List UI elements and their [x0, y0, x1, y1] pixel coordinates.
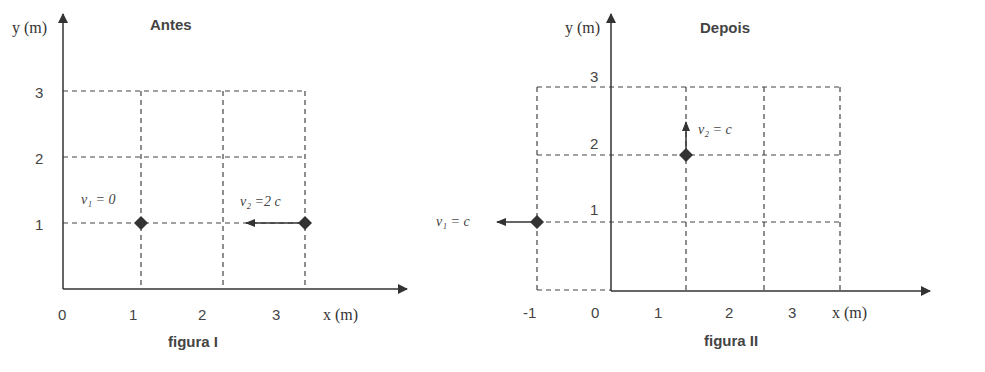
velocity-label-1b: v₁ = c — [436, 215, 470, 229]
x-tick-3b: 3 — [788, 305, 796, 320]
figure-2 — [497, 14, 930, 291]
grid-1 — [63, 91, 305, 289]
velocity-label-1: v₁ = 0 — [81, 193, 116, 207]
figure-2-title: Depois — [700, 20, 750, 35]
y-tick-3: 3 — [35, 85, 43, 100]
figure-1 — [63, 14, 407, 289]
y-axis-label-2: y (m) — [565, 20, 600, 36]
y-tick-2b: 2 — [590, 136, 598, 151]
y-tick-2: 2 — [35, 151, 43, 166]
x-tick-3: 3 — [272, 307, 280, 322]
figure-1-title: Antes — [150, 17, 192, 32]
velocity-label-2: v₂ =2 c — [240, 195, 281, 209]
y-tick-1b: 1 — [590, 202, 598, 217]
velocity-label-2b: v₂ = c — [698, 123, 732, 137]
y-tick-1: 1 — [35, 217, 43, 232]
x-tick-1: 1 — [129, 307, 137, 322]
y-axis-label-1: y (m) — [12, 20, 47, 36]
grid-2 — [537, 87, 841, 291]
particle-1b-dot — [530, 215, 544, 229]
x-tick-2: 2 — [198, 307, 206, 322]
x-tick-1b: 1 — [654, 305, 662, 320]
figure-1-caption: figura I — [168, 334, 218, 349]
x-axis-label-2: x (m) — [832, 305, 867, 321]
particle-2-dot — [298, 216, 312, 230]
x-tick-0: 0 — [58, 307, 66, 322]
figure-2-caption: figura II — [704, 333, 758, 348]
x-tick-neg1b: -1 — [523, 305, 536, 320]
x-axis-label-1: x (m) — [323, 307, 358, 323]
particle-1-dot — [134, 216, 148, 230]
x-tick-2b: 2 — [725, 305, 733, 320]
particle-2b-dot — [679, 148, 693, 162]
x-tick-0b: 0 — [591, 305, 599, 320]
y-tick-3b: 3 — [590, 69, 598, 84]
